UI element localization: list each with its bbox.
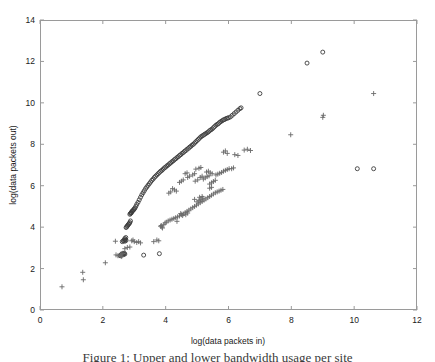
figure-container: 02468101202468101214 log(data packets in… (0, 0, 435, 362)
x-tick-label: 0 (38, 315, 43, 325)
x-tick-label: 2 (100, 315, 105, 325)
x-tick-label: 10 (349, 315, 358, 325)
x-axis-title: log(data packets in) (191, 336, 265, 346)
y-tick-label: 2 (0, 264, 35, 274)
y-tick-label: 0 (0, 305, 35, 315)
x-tick-label: 8 (289, 315, 294, 325)
x-tick-label: 12 (412, 315, 421, 325)
plot-axes-box (40, 20, 417, 310)
y-tick-label: 14 (0, 15, 35, 25)
x-tick-label: 6 (226, 315, 231, 325)
figure-caption: Figure 1: Upper and lower bandwidth usag… (0, 350, 435, 362)
y-tick-label: 12 (0, 56, 35, 66)
x-tick-label: 4 (163, 315, 168, 325)
y-tick-label: 4 (0, 222, 35, 232)
y-tick-label: 10 (0, 98, 35, 108)
y-axis-title: log(data packets out) (8, 125, 18, 204)
